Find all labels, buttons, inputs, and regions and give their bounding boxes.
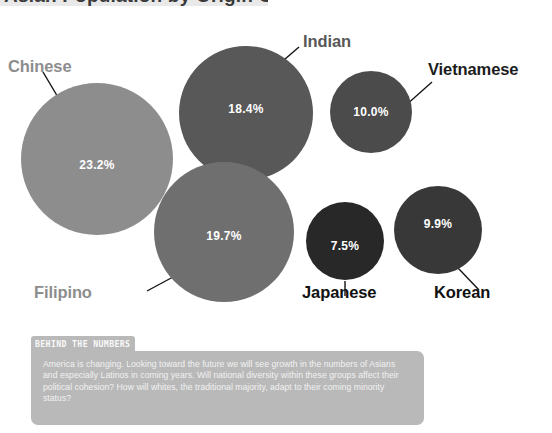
- bubble-korean[interactable]: 9.9%: [394, 186, 482, 274]
- bubble-label-chinese: Chinese: [8, 57, 72, 76]
- bubble-vietnamese[interactable]: 10.0%: [330, 71, 412, 153]
- bubble-label-filipino: Filipino: [34, 283, 92, 302]
- behind-the-numbers-body: America is changing. Looking toward the …: [43, 359, 411, 405]
- bubble-value-indian: 18.4%: [228, 102, 264, 116]
- bubble-value-vietnamese: 10.0%: [353, 105, 389, 119]
- bubble-value-korean: 9.9%: [424, 217, 453, 231]
- leader-line-filipino: [147, 277, 173, 291]
- bubble-label-japanese: Japanese: [302, 283, 376, 302]
- bubble-indian[interactable]: 18.4%: [179, 46, 313, 180]
- bubble-label-vietnamese: Vietnamese: [428, 60, 518, 79]
- bubble-value-japanese: 7.5%: [331, 239, 360, 253]
- bubble-value-filipino: 19.7%: [206, 229, 242, 243]
- bubble-japanese[interactable]: 7.5%: [306, 202, 384, 280]
- bubble-chinese[interactable]: 23.2%: [21, 83, 173, 235]
- behind-the-numbers-panel: America is changing. Looking toward the …: [31, 351, 424, 425]
- behind-the-numbers-tab-label: BEHIND THE NUMBERS: [35, 339, 130, 349]
- behind-the-numbers-tab: BEHIND THE NUMBERS: [31, 336, 135, 351]
- bubble-value-chinese: 23.2%: [79, 158, 115, 172]
- bubble-filipino[interactable]: 19.7%: [154, 162, 294, 302]
- infographic-canvas: Asian Population by Origin Group 23.2% 1…: [0, 0, 552, 433]
- bubble-label-indian: Indian: [303, 32, 351, 51]
- bubble-label-korean: Korean: [434, 283, 490, 302]
